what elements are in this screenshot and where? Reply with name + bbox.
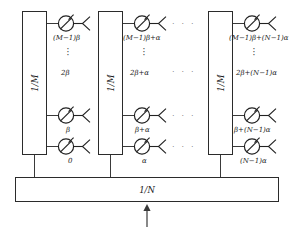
combiner-label: 1/N: [139, 185, 155, 195]
phase-label-col-1-bottom: 0: [68, 158, 72, 165]
horizontal-ellipsis-lower: · · ·: [172, 112, 196, 120]
phase-label-col-1-top: (M−1)β: [53, 35, 80, 42]
antenna-icon: [159, 140, 167, 154]
antenna-icon: [269, 109, 277, 123]
array-element-col-3-lower: [242, 105, 282, 126]
array-element-col-2-lower: [132, 105, 172, 126]
array-element-col-3-bottom: [242, 136, 282, 157]
array-element-col-2-top: [132, 13, 172, 34]
phase-label-col-2-middle: 2β+α: [130, 70, 149, 77]
combiner-lead-col-2: [110, 155, 111, 177]
phase-label-col-3-bottom: (N−1)α: [240, 158, 267, 165]
antenna-icon: [159, 109, 167, 123]
horizontal-ellipsis-top: · · ·: [172, 20, 196, 28]
array-element-col-1-lower: [56, 105, 96, 126]
splitter-label-col-1: 1/M: [30, 74, 40, 91]
horizontal-ellipsis-middle: · · ·: [172, 68, 196, 76]
combiner-lead-col-3: [220, 155, 221, 177]
vertical-ellipsis-col-1: ···: [63, 48, 73, 57]
phase-label-col-1-lower: β: [66, 127, 70, 134]
antenna-icon: [269, 140, 277, 154]
vertical-ellipsis-col-3: ···: [249, 48, 259, 57]
array-element-col-2-bottom: [132, 136, 172, 157]
array-element-col-3-top: [242, 13, 282, 34]
splitter-box-col-3: 1/M: [208, 11, 233, 155]
vertical-ellipsis-col-2: ···: [139, 48, 149, 57]
horizontal-ellipsis-bottom: · · ·: [172, 143, 196, 151]
phase-label-col-1-middle: 2β: [61, 70, 70, 77]
array-element-col-1-bottom: [56, 136, 96, 157]
one-over-n-divider-box: 1/N: [15, 177, 279, 202]
splitter-box-col-2: 1/M: [98, 11, 123, 155]
antenna-icon: [83, 109, 91, 123]
antenna-icon: [269, 17, 277, 31]
antenna-icon: [159, 17, 167, 31]
phase-label-col-2-lower: β+α: [135, 127, 150, 134]
splitter-box-col-1: 1/M: [22, 11, 47, 155]
phase-label-col-2-top: (M−1)β+α: [123, 35, 161, 42]
phase-label-col-3-lower: β+(N−1)α: [234, 127, 271, 134]
splitter-label-col-3: 1/M: [216, 74, 226, 91]
phase-label-col-3-top: (M−1)β+(N−1)α: [229, 35, 289, 42]
antenna-icon: [83, 140, 91, 154]
phased-array-feed-network-diagram: 1/M (M−1)β ··· 2β β: [0, 0, 304, 233]
rf-input-arrow: [140, 203, 154, 231]
phase-label-col-3-middle: 2β+(N−1)α: [236, 70, 277, 77]
splitter-label-col-2: 1/M: [106, 74, 116, 91]
combiner-lead-col-1: [34, 155, 35, 177]
array-element-col-1-top: [56, 13, 96, 34]
phase-label-col-2-bottom: α: [142, 158, 147, 165]
antenna-icon: [83, 17, 91, 31]
